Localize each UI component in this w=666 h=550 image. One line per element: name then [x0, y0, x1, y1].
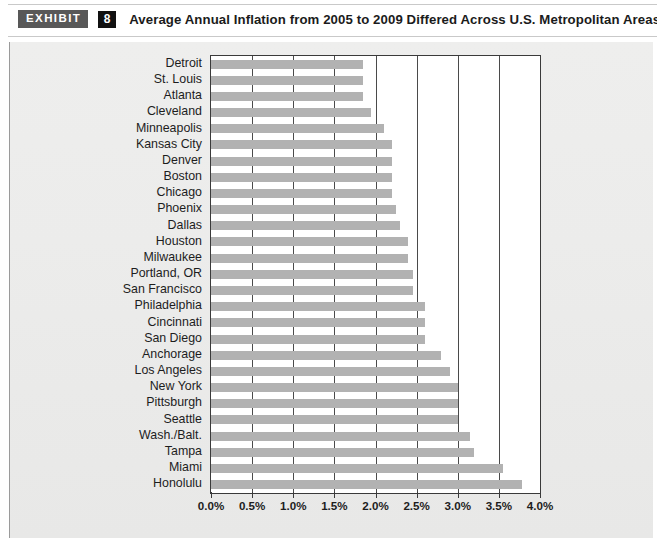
- y-axis-label: Los Angeles: [134, 364, 202, 376]
- bar: [211, 92, 363, 101]
- x-axis-tick-label: 1.5%: [321, 500, 347, 512]
- y-axis-label-row: Cincinnati: [30, 314, 208, 330]
- y-axis-label-row: Seattle: [30, 411, 208, 427]
- header-rule-bottom: [8, 36, 658, 37]
- bar-row: [211, 137, 540, 153]
- bar: [211, 302, 425, 311]
- y-axis-label: Portland, OR: [130, 267, 202, 279]
- y-axis-label-row: Chicago: [30, 184, 208, 200]
- x-axis-tick: [211, 492, 212, 498]
- x-axis-tick-label: 3.0%: [445, 500, 471, 512]
- bar: [211, 124, 384, 133]
- bar: [211, 432, 470, 441]
- y-axis-label: Boston: [163, 170, 202, 182]
- y-axis-label-row: Honolulu: [30, 475, 208, 491]
- bar-row: [211, 331, 540, 347]
- bar: [211, 60, 363, 69]
- bar: [211, 318, 425, 327]
- bar: [211, 237, 408, 246]
- y-axis-label: Milwaukee: [143, 251, 202, 263]
- y-axis-label: Minneapolis: [136, 122, 202, 134]
- bar-row: [211, 218, 540, 234]
- y-axis-label: Tampa: [165, 445, 202, 457]
- bar-row: [211, 121, 540, 137]
- y-axis-label: Atlanta: [163, 89, 202, 101]
- y-axis-label: Seattle: [163, 413, 202, 425]
- x-axis-tick: [540, 492, 541, 498]
- bar-row: [211, 315, 540, 331]
- bar-row: [211, 299, 540, 315]
- y-axis-label-row: Atlanta: [30, 87, 208, 103]
- y-axis-label-row: Wash./Balt.: [30, 427, 208, 443]
- bar-row: [211, 202, 540, 218]
- y-axis-label-row: Boston: [30, 168, 208, 184]
- y-axis-label: San Diego: [144, 332, 202, 344]
- bar-row: [211, 56, 540, 72]
- bar-row: [211, 444, 540, 460]
- y-axis-label: Philadelphia: [134, 299, 202, 311]
- bar: [211, 108, 371, 117]
- x-axis-tick-labels: 0.0%0.5%1.0%1.5%2.0%2.5%3.0%3.5%4.0%: [210, 500, 541, 516]
- bar: [211, 351, 441, 360]
- y-axis-label-row: Portland, OR: [30, 265, 208, 281]
- bar: [211, 415, 458, 424]
- bar-row: [211, 105, 540, 121]
- bar-row: [211, 363, 540, 379]
- bar-row: [211, 428, 540, 444]
- bar: [211, 189, 392, 198]
- y-axis-label: New York: [150, 380, 202, 392]
- exhibit-badge: EXHIBIT: [18, 10, 88, 28]
- bar-row: [211, 250, 540, 266]
- y-axis-label-row: Milwaukee: [30, 249, 208, 265]
- y-axis-label: Wash./Balt.: [139, 429, 202, 441]
- x-axis-tick: [334, 492, 335, 498]
- y-axis-label: Dallas: [168, 219, 202, 231]
- x-axis-tick: [499, 492, 500, 498]
- y-axis-label-row: Denver: [30, 152, 208, 168]
- bar: [211, 383, 458, 392]
- page-right-margin: [657, 0, 666, 550]
- y-axis-label: Denver: [162, 154, 202, 166]
- bar: [211, 76, 363, 85]
- exhibit-number-badge: 8: [98, 11, 116, 28]
- y-axis-label-row: Tampa: [30, 443, 208, 459]
- exhibit-title: Average Annual Inflation from 2005 to 20…: [129, 12, 660, 27]
- y-axis-label-row: Philadelphia: [30, 298, 208, 314]
- y-axis-label: Chicago: [157, 186, 202, 198]
- bar-row: [211, 282, 540, 298]
- bar-row: [211, 88, 540, 104]
- y-axis-label-row: Phoenix: [30, 201, 208, 217]
- x-axis-tick-label: 0.5%: [239, 500, 265, 512]
- bar: [211, 480, 522, 489]
- bar-row: [211, 476, 540, 492]
- y-axis-label: Cleveland: [147, 105, 202, 117]
- bar: [211, 173, 392, 182]
- x-axis-tick-label: 0.0%: [198, 500, 224, 512]
- bar-row: [211, 234, 540, 250]
- bar: [211, 157, 392, 166]
- y-axis-label: Cincinnati: [148, 316, 202, 328]
- y-axis-label: Miami: [169, 461, 202, 473]
- x-axis-tick: [252, 492, 253, 498]
- bar: [211, 254, 408, 263]
- x-axis-tick: [458, 492, 459, 498]
- y-axis-label: Kansas City: [136, 138, 202, 150]
- bar-row: [211, 379, 540, 395]
- y-axis-label-row: St. Louis: [30, 71, 208, 87]
- bar: [211, 221, 400, 230]
- bar: [211, 205, 396, 214]
- y-axis-label-row: Cleveland: [30, 104, 208, 120]
- x-axis-tick-label: 3.5%: [486, 500, 512, 512]
- x-axis-tick: [376, 492, 377, 498]
- x-axis-tick-label: 1.0%: [280, 500, 306, 512]
- bar: [211, 448, 474, 457]
- y-axis-label: San Francisco: [123, 283, 202, 295]
- y-axis-label-row: Detroit: [30, 55, 208, 71]
- exhibit-header: EXHIBIT 8 Average Annual Inflation from …: [0, 0, 666, 38]
- y-axis-label-row: San Diego: [30, 330, 208, 346]
- bar-row: [211, 72, 540, 88]
- y-axis-label-row: Minneapolis: [30, 120, 208, 136]
- bar-row: [211, 169, 540, 185]
- x-axis-tick: [417, 492, 418, 498]
- bar: [211, 367, 450, 376]
